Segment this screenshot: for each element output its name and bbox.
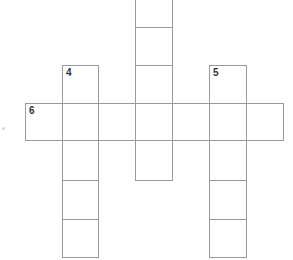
cell-4-r4[interactable] (62, 219, 99, 258)
cell-mid-r1[interactable] (135, 27, 173, 66)
cell-4-r0[interactable]: 4 (62, 65, 99, 104)
cell-6-c1[interactable] (62, 103, 99, 141)
cell-5-r4[interactable] (209, 219, 247, 258)
cell-mid-r2[interactable] (135, 65, 173, 104)
clue-number-4: 4 (66, 68, 72, 78)
cell-mid-r4[interactable] (135, 140, 173, 181)
cell-mid-r0[interactable] (135, 0, 173, 28)
clue-number-5: 5 (213, 68, 219, 78)
cell-6-c2[interactable] (98, 103, 136, 141)
cell-6-c6[interactable] (246, 103, 284, 141)
cell-6-c0[interactable]: 6 (25, 103, 63, 141)
cell-5-r2[interactable] (209, 140, 247, 181)
clue-number-6: 6 (29, 106, 35, 116)
cell-4-r3[interactable] (62, 180, 99, 220)
cell-6-c3[interactable] (135, 103, 173, 141)
cell-6-c4[interactable] (172, 103, 210, 141)
cell-5-r0[interactable]: 5 (209, 65, 247, 104)
cell-5-r3[interactable] (209, 180, 247, 220)
cell-4-r2[interactable] (62, 140, 99, 181)
stray-mark (2, 127, 5, 130)
cell-6-c5[interactable] (209, 103, 247, 141)
